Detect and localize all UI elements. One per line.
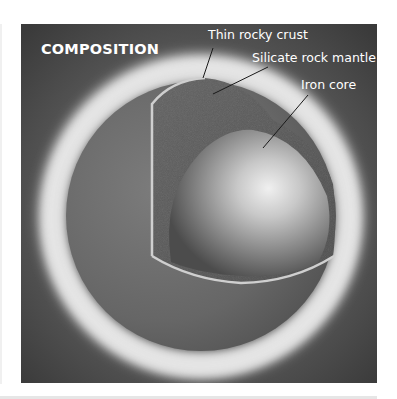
label-silicate-rock-mantle: Silicate rock mantle	[252, 50, 376, 65]
planet-composition-figure: COMPOSITION Thin rocky crust Silicate ro…	[21, 24, 377, 383]
label-thin-rocky-crust: Thin rocky crust	[208, 27, 308, 42]
figure-title: COMPOSITION	[41, 41, 159, 57]
left-border-line	[0, 24, 2, 384]
label-iron-core: Iron core	[301, 77, 356, 92]
